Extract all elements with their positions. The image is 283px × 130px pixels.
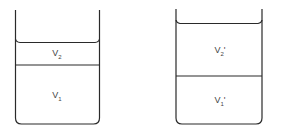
left-lower-layer-label: V1 bbox=[52, 90, 61, 102]
left-top-meniscus bbox=[16, 39, 100, 43]
right-top-meniscus bbox=[176, 20, 262, 24]
left-beaker bbox=[16, 10, 100, 124]
left-upper-layer-label: V2 bbox=[52, 48, 61, 60]
right-upper-layer-label: V2' bbox=[214, 45, 225, 57]
left-beaker-outline bbox=[16, 10, 100, 124]
right-lower-layer-label: V1' bbox=[214, 95, 225, 107]
label-subscript: 1 bbox=[58, 96, 61, 102]
label-prime: ' bbox=[224, 45, 226, 55]
beaker-diagram bbox=[0, 0, 283, 130]
label-subscript: 2 bbox=[58, 54, 61, 60]
label-prime: ' bbox=[224, 95, 226, 105]
